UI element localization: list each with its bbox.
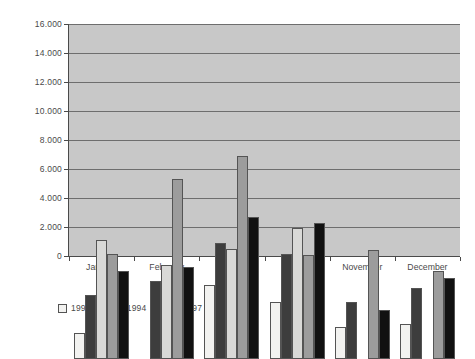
x-axis-tick-mark: [460, 257, 461, 261]
legend-swatch-icon-1993: [58, 304, 67, 313]
y-axis-tick-mark: [64, 227, 68, 228]
bar-december-2000: [444, 278, 455, 359]
bar-february-1994: [150, 281, 161, 359]
y-axis-tick-label: 10.000: [0, 106, 62, 116]
bar-group: [400, 24, 455, 359]
bar-february-1997: [161, 265, 172, 359]
bar-march-1993: [204, 285, 215, 359]
y-axis-tick-label: 4.000: [0, 193, 62, 203]
bar-january-1997: [96, 240, 107, 359]
bar-january-2000: [118, 271, 129, 359]
bar-april-1994: [281, 254, 292, 359]
bar-january-1994: [85, 295, 96, 359]
y-axis-tick-label: 2.000: [0, 222, 62, 232]
y-axis-tick-mark: [64, 140, 68, 141]
bar-march-1997: [226, 249, 237, 359]
y-axis-tick-mark: [64, 198, 68, 199]
bar-april-2000: [314, 223, 325, 359]
bar-group: [74, 24, 129, 359]
bar-november-1998: [368, 250, 379, 359]
bar-march-1998: [237, 156, 248, 359]
x-axis-tick-mark: [330, 257, 331, 261]
x-axis-tick-mark: [265, 257, 266, 261]
y-axis-tick-mark: [64, 111, 68, 112]
y-axis-tick-label: 0: [0, 251, 62, 261]
bar-november-1993: [335, 327, 346, 359]
x-axis-tick-mark: [395, 257, 396, 261]
y-axis-tick-label: 14.000: [0, 48, 62, 58]
y-axis-tick-mark: [64, 53, 68, 54]
y-axis-tick-mark: [64, 256, 68, 257]
bar-group: [335, 24, 390, 359]
bar-december-1998: [433, 271, 444, 359]
bar-april-1993: [270, 302, 281, 359]
bar-group: [204, 24, 259, 359]
bar-february-1998: [172, 179, 183, 359]
bar-january-1998: [107, 254, 118, 359]
y-axis-tick-label: 12.000: [0, 77, 62, 87]
bar-november-1994: [346, 302, 357, 359]
bar-december-1993: [400, 324, 411, 359]
bar-march-2000: [248, 217, 259, 359]
bar-november-2000: [379, 310, 390, 359]
y-axis-tick-label: 6.000: [0, 164, 62, 174]
bar-april-1998: [303, 255, 314, 359]
x-axis-tick-mark: [69, 257, 70, 261]
bar-january-1993: [74, 333, 85, 359]
bar-december-1994: [411, 288, 422, 359]
bar-march-1994: [215, 243, 226, 359]
y-axis-tick-mark: [64, 24, 68, 25]
bar-group: [270, 24, 325, 359]
x-axis-tick-mark: [199, 257, 200, 261]
y-axis-line: [68, 24, 69, 257]
bar-april-1997: [292, 228, 303, 359]
x-axis-tick-mark: [134, 257, 135, 261]
y-axis-tick-mark: [64, 82, 68, 83]
y-axis-tick-label: 8.000: [0, 135, 62, 145]
bar-february-2000: [183, 267, 194, 359]
y-axis-tick-mark: [64, 169, 68, 170]
y-axis-tick-label: 16.000: [0, 19, 62, 29]
bar-group: [139, 24, 194, 359]
